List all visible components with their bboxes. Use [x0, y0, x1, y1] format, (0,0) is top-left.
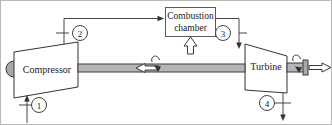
station-2-label: 2	[78, 29, 83, 39]
combustion-chamber-device: Combustion chamber	[166, 8, 216, 55]
connecting-shaft	[78, 56, 245, 72]
compressor-label: Compressor	[23, 64, 72, 75]
output-shaft-and-work	[287, 55, 331, 75]
net-work-hollow-right-arrow	[309, 63, 331, 72]
station-marker-2: 2	[73, 26, 88, 41]
gas-turbine-cycle-diagram: Compressor Turbine Combustion chamber	[0, 0, 332, 125]
turbine-label: Turbine	[250, 61, 282, 72]
diagram-canvas: Compressor Turbine Combustion chamber	[0, 0, 332, 125]
compressor-device: Compressor	[6, 42, 78, 98]
combustion-chamber-label-line1: Combustion	[167, 11, 214, 21]
station-marker-4: 4	[260, 96, 275, 111]
station-1-label: 1	[37, 101, 42, 111]
station-4-label: 4	[265, 99, 270, 109]
turbine-device: Turbine	[245, 44, 287, 93]
station-marker-1: 1	[32, 98, 47, 113]
station-marker-3: 3	[216, 26, 231, 41]
pipe-station-4-turbine-exhaust	[275, 93, 291, 121]
shaft-body	[78, 64, 245, 72]
station-3-label: 3	[221, 29, 226, 39]
fuel-input-hollow-up-arrow	[184, 37, 197, 54]
output-shaft-coupling	[303, 60, 308, 75]
combustion-chamber-label-line2: chamber	[174, 23, 208, 33]
